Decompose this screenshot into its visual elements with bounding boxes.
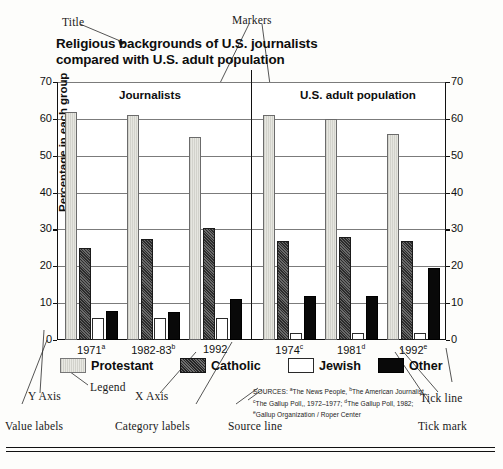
bar-other-1974c — [304, 296, 316, 340]
category-label-1971a: 1971a — [57, 343, 126, 356]
annotation-markers-label: Markers — [232, 14, 272, 26]
sources-prefix: SOURCES: — [253, 388, 288, 395]
tick-mark — [53, 340, 57, 341]
legend-item-jewish[interactable]: Jewish — [288, 358, 361, 373]
tick-mark — [53, 156, 57, 157]
bar-protestant-1982-83b — [127, 115, 139, 340]
legend-label-catholic: Catholic — [211, 359, 261, 373]
category-label-1981d: 1981d — [317, 343, 386, 356]
category-label-1992e: 1992e — [379, 343, 448, 356]
chart-figure: Title Markers Y Axis X Axis Legend Value… — [0, 0, 503, 469]
y-tick-label-right: 20 — [451, 259, 473, 271]
legend-label-other: Other — [409, 359, 443, 373]
y-tick-label-left: 50 — [30, 149, 52, 161]
y-tick-label-left: 20 — [30, 259, 52, 271]
legend-swatch-catholic-icon — [180, 358, 206, 373]
tick-mark — [53, 82, 57, 83]
annotation-category-labels-label: Category labels — [115, 420, 190, 432]
bar-protestant-1981d — [325, 119, 337, 340]
y-tick-label-right: 30 — [451, 222, 473, 234]
source-ref-d: The Gallup Poll, 1982; — [347, 400, 413, 407]
group-separator — [251, 70, 252, 340]
tick-mark — [53, 229, 57, 230]
bar-protestant-1992 — [189, 137, 201, 340]
category-label-1982-83b: 1982-83b — [119, 343, 188, 356]
legend-label-jewish: Jewish — [319, 359, 361, 373]
y-tick-label-left: 10 — [30, 296, 52, 308]
y-tick-label-left: 40 — [30, 186, 52, 198]
legend-item-catholic[interactable]: Catholic — [180, 358, 261, 373]
tick-mark — [446, 340, 450, 341]
page-title: Religious backgrounds of U.S. journalist… — [56, 36, 386, 68]
bar-jewish-1982-83b — [154, 318, 166, 340]
source-line-1: SOURCES: aThe News People, bThe American… — [253, 385, 458, 397]
y-tick-label-right: 70 — [451, 75, 473, 87]
source-ref-a: The News People, — [293, 388, 348, 395]
tick-mark — [446, 119, 450, 120]
tick-mark — [53, 193, 57, 194]
source-ref-c: The Gallup Poll,, 1972–1977; — [256, 400, 343, 407]
bar-catholic-1992e — [401, 241, 413, 341]
group-header-us-adults: U.S. adult population — [300, 88, 416, 101]
bar-protestant-1974c — [263, 115, 275, 340]
legend-swatch-other-icon — [378, 358, 404, 373]
annotation-tick-mark-label: Tick mark — [418, 420, 467, 432]
y-tick-label-left: 30 — [30, 222, 52, 234]
page-rule-top — [6, 447, 495, 448]
bar-other-1971a — [106, 311, 118, 340]
bar-jewish-1992 — [216, 318, 228, 340]
bar-other-1981d — [366, 296, 378, 340]
annotation-source-line-label: Source line — [228, 420, 282, 432]
y-tick-label-right: 0 — [451, 333, 473, 345]
legend-item-protestant[interactable]: Protestant — [60, 358, 153, 373]
tick-mark — [446, 229, 450, 230]
gridline — [57, 119, 446, 120]
legend-swatch-protestant-icon — [60, 358, 86, 373]
bar-jewish-1971a — [92, 318, 104, 340]
annotation-value-labels-label: Value labels — [5, 420, 63, 432]
bar-protestant-1971a — [65, 112, 77, 341]
bar-catholic-1974c — [277, 241, 289, 341]
source-ref-b: The American Journalist, — [352, 388, 426, 395]
chart-title-line-2: compared with U.S. adult population — [56, 52, 386, 68]
gridline — [57, 82, 446, 83]
annotation-legend-label: Legend — [90, 381, 126, 393]
bar-jewish-1974c — [290, 333, 302, 340]
tick-mark — [53, 266, 57, 267]
bar-protestant-1992e — [387, 134, 399, 340]
bar-catholic-1992 — [203, 228, 215, 340]
tick-mark — [446, 156, 450, 157]
bar-jewish-1981d — [352, 333, 364, 340]
tick-mark — [446, 193, 450, 194]
category-label-1992: 1992 — [181, 343, 250, 355]
y-tick-label-left: 0 — [30, 333, 52, 345]
legend: ProtestantCatholicJewishOther — [60, 358, 390, 380]
legend-label-protestant: Protestant — [91, 359, 153, 373]
page-rule-bottom — [6, 451, 495, 452]
tick-mark — [53, 119, 57, 120]
source-line-3: eGallup Organization / Roper Center — [253, 408, 458, 420]
tick-mark — [446, 266, 450, 267]
tick-mark — [446, 82, 450, 83]
source-line-2: cThe Gallup Poll,, 1972–1977; dThe Gallu… — [253, 397, 458, 409]
source-line: SOURCES: aThe News People, bThe American… — [253, 385, 458, 420]
category-label-1974c: 1974c — [255, 343, 324, 356]
source-ref-e: Gallup Organization / Roper Center — [256, 411, 361, 418]
annotation-x-axis-label: X Axis — [135, 390, 168, 402]
bar-other-1982-83b — [168, 312, 180, 340]
annotation-title-label: Title — [62, 16, 84, 28]
group-header-journalists: Journalists — [119, 88, 181, 101]
plot-area: Percentage in each group Journalists U.S… — [57, 82, 446, 340]
y-tick-label-left: 70 — [30, 75, 52, 87]
y-tick-label-right: 40 — [451, 186, 473, 198]
tick-mark — [53, 303, 57, 304]
legend-item-other[interactable]: Other — [378, 358, 443, 373]
tick-mark — [446, 303, 450, 304]
y-tick-label-right: 60 — [451, 112, 473, 124]
y-tick-label-left: 60 — [30, 112, 52, 124]
bar-catholic-1982-83b — [141, 239, 153, 340]
bar-catholic-1981d — [339, 237, 351, 340]
y-tick-label-right: 50 — [451, 149, 473, 161]
legend-swatch-jewish-icon — [288, 358, 314, 373]
bar-other-1992e — [428, 268, 440, 340]
